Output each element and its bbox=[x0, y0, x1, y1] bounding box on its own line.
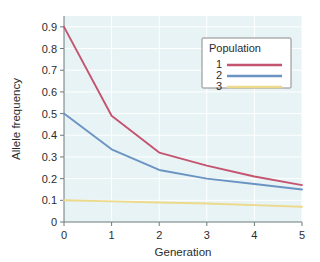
y-tick-label: 0.1 bbox=[42, 194, 57, 206]
x-tick-label: 2 bbox=[156, 229, 162, 241]
y-axis-tick-labels: 00.10.20.30.40.50.60.70.80.9 bbox=[42, 21, 57, 228]
legend[interactable]: Population 123 bbox=[202, 38, 291, 92]
x-tick-label: 4 bbox=[251, 229, 257, 241]
y-axis-ticks bbox=[60, 27, 64, 222]
y-tick-label: 0.4 bbox=[42, 129, 57, 141]
x-tick-label: 0 bbox=[61, 229, 67, 241]
line-chart-figure: 00.10.20.30.40.50.60.70.80.9 012345 Gene… bbox=[0, 0, 320, 262]
x-axis-title: Generation bbox=[155, 246, 212, 258]
y-tick-label: 0.6 bbox=[42, 86, 57, 98]
y-tick-label: 0.7 bbox=[42, 64, 57, 76]
x-axis-tick-labels: 012345 bbox=[61, 229, 305, 241]
y-tick-label: 0.9 bbox=[42, 21, 57, 33]
y-tick-label: 0.3 bbox=[42, 151, 57, 163]
x-tick-label: 5 bbox=[299, 229, 305, 241]
chart-canvas: 00.10.20.30.40.50.60.70.80.9 012345 Gene… bbox=[0, 0, 320, 262]
screenshot-root: 00.10.20.30.40.50.60.70.80.9 012345 Gene… bbox=[0, 0, 320, 262]
y-tick-label: 0.2 bbox=[42, 173, 57, 185]
y-tick-label: 0.5 bbox=[42, 108, 57, 120]
x-tick-label: 3 bbox=[204, 229, 210, 241]
x-tick-label: 1 bbox=[109, 229, 115, 241]
x-axis-ticks bbox=[64, 222, 302, 226]
legend-title: Population bbox=[209, 42, 261, 54]
y-tick-label: 0.8 bbox=[42, 43, 57, 55]
y-axis-title: Allele frequency bbox=[10, 78, 22, 160]
legend-entry-label: 3 bbox=[216, 80, 222, 92]
y-tick-label: 0 bbox=[51, 216, 57, 228]
